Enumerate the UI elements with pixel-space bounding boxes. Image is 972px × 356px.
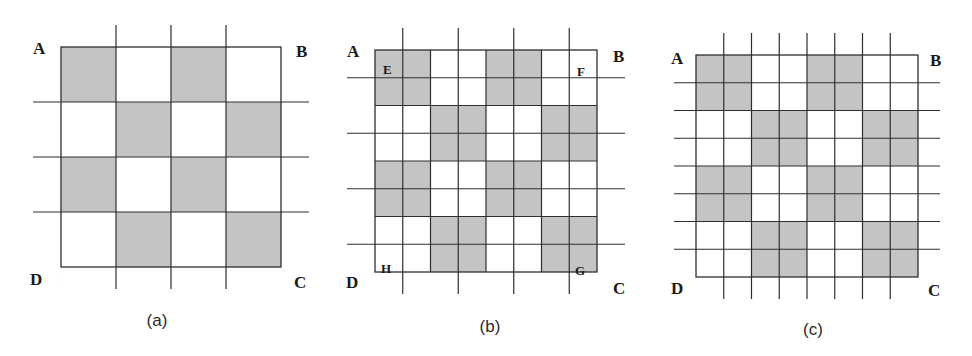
shaded-cell	[542, 244, 570, 272]
shaded-cell	[779, 249, 807, 277]
point-label-f: F	[577, 64, 585, 79]
panel-b: ABCDEFGH(b)	[346, 28, 625, 336]
shaded-cell	[696, 83, 724, 111]
point-label-g: G	[575, 263, 585, 278]
shaded-cell	[890, 249, 918, 277]
shaded-cell	[807, 166, 835, 194]
shaded-cell	[375, 78, 403, 106]
shaded-cell	[569, 106, 597, 134]
shaded-cell	[431, 244, 459, 272]
shaded-cell	[486, 78, 514, 106]
corner-label-d: D	[30, 270, 42, 289]
shaded-cell	[835, 55, 863, 83]
corner-label-d: D	[346, 273, 358, 292]
shaded-cell	[486, 161, 514, 189]
shaded-cell	[458, 244, 486, 272]
shaded-cell	[514, 50, 542, 78]
shaded-cell	[431, 217, 459, 245]
shaded-cell	[403, 78, 431, 106]
point-label-e: E	[383, 62, 392, 77]
shaded-cell	[779, 111, 807, 139]
shaded-cell	[807, 194, 835, 222]
shaded-cell	[403, 50, 431, 78]
shaded-cell	[890, 111, 918, 139]
shaded-cell	[514, 161, 542, 189]
diagram-canvas: ABCD(a)ABCDEFGH(b)ABCD(c)	[0, 0, 972, 356]
shaded-cell	[724, 55, 752, 83]
corner-label-d: D	[671, 279, 683, 298]
shaded-cell	[863, 111, 891, 139]
panel-caption: (a)	[147, 311, 168, 330]
shaded-cell	[171, 47, 226, 102]
shaded-cell	[779, 222, 807, 250]
shaded-cell	[752, 138, 780, 166]
corner-label-c: C	[294, 273, 306, 292]
shaded-cell	[724, 194, 752, 222]
shaded-cell	[486, 189, 514, 217]
corner-label-b: B	[613, 47, 624, 66]
corner-label-b: B	[296, 42, 307, 61]
shaded-cell	[226, 212, 281, 267]
shaded-cell	[61, 157, 116, 212]
shaded-cell	[752, 249, 780, 277]
shaded-cell	[458, 217, 486, 245]
corner-label-b: B	[930, 51, 941, 70]
shaded-cell	[375, 189, 403, 217]
shaded-cell	[542, 217, 570, 245]
shaded-cell	[807, 55, 835, 83]
shaded-cell	[514, 78, 542, 106]
shaded-cell	[890, 138, 918, 166]
shaded-cell	[779, 138, 807, 166]
shaded-cell	[863, 222, 891, 250]
corner-label-a: A	[347, 42, 360, 61]
shaded-cell	[226, 102, 281, 157]
corner-label-a: A	[671, 49, 684, 68]
shaded-cell	[835, 194, 863, 222]
shaded-cell	[724, 166, 752, 194]
shaded-cell	[863, 249, 891, 277]
shaded-cell	[61, 47, 116, 102]
corner-label-c: C	[928, 281, 940, 300]
shaded-cell	[569, 217, 597, 245]
panel-caption: (b)	[480, 317, 501, 336]
shaded-cell	[458, 133, 486, 161]
shaded-cell	[514, 189, 542, 217]
shaded-cell	[486, 50, 514, 78]
shaded-cell	[696, 55, 724, 83]
panel-a: ABCD(a)	[30, 25, 309, 330]
panel-caption: (c)	[803, 320, 823, 339]
shaded-cell	[696, 194, 724, 222]
shaded-cell	[863, 138, 891, 166]
shaded-cell	[890, 222, 918, 250]
shaded-cell	[807, 83, 835, 111]
shaded-cell	[431, 133, 459, 161]
shaded-cell	[375, 161, 403, 189]
shaded-cell	[752, 111, 780, 139]
shaded-cell	[569, 133, 597, 161]
shaded-cell	[696, 166, 724, 194]
shaded-cell	[835, 166, 863, 194]
shaded-cell	[458, 106, 486, 134]
shaded-cell	[752, 222, 780, 250]
corner-label-c: C	[613, 279, 625, 298]
shaded-cell	[171, 157, 226, 212]
shaded-cell	[542, 106, 570, 134]
shaded-cell	[542, 133, 570, 161]
shaded-cell	[403, 189, 431, 217]
point-label-h: H	[381, 261, 391, 276]
panel-c: ABCD(c)	[671, 33, 941, 339]
shaded-cell	[835, 83, 863, 111]
shaded-cell	[724, 83, 752, 111]
shaded-cell	[431, 106, 459, 134]
corner-label-a: A	[33, 39, 46, 58]
shaded-cell	[116, 102, 171, 157]
shaded-cell	[403, 161, 431, 189]
shaded-cell	[116, 212, 171, 267]
